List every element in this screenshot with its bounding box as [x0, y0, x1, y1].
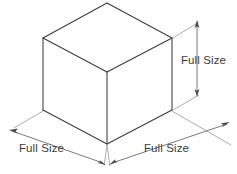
arrowhead-width-right-outer-icon — [221, 122, 230, 128]
isometric-cube-figure: Full Size Full Size Full Size — [0, 0, 237, 174]
extension-line-front-bottom-left — [104, 145, 107, 166]
extension-line-top-right — [173, 22, 199, 38]
extension-line-front-bottom-right — [107, 145, 110, 166]
dimension-label-width-right: Full Size — [144, 142, 189, 155]
dimension-label-width-left: Full Size — [19, 142, 64, 155]
arrowhead-width-right-inner-icon — [109, 159, 118, 165]
extension-line-bottom-right — [173, 95, 199, 110]
dimension-label-height: Full Size — [181, 54, 226, 67]
arrowhead-width-left-outer-icon — [9, 129, 18, 134]
extension-line-left-bottom — [14, 111, 43, 128]
